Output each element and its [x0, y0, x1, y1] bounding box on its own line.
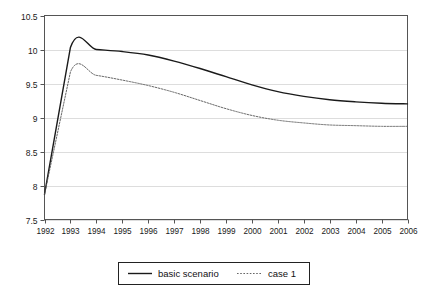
chart-background: [0, 0, 427, 301]
chart-legend: basic scenario case 1: [119, 263, 310, 285]
y-tick-label-10: 10: [28, 46, 38, 56]
legend-label-case-1: case 1: [268, 268, 296, 279]
x-tick-label-2002: 2002: [295, 227, 314, 236]
x-tick-label-2004: 2004: [347, 227, 366, 236]
chart-figure: 10.5109.598.587.5 1992199319941995199619…: [0, 0, 427, 301]
x-tick-label-1992: 1992: [36, 227, 55, 236]
x-tick-label-2006: 2006: [399, 227, 418, 236]
y-tick-label-10.5: 10.5: [21, 12, 38, 22]
x-tick-label-1999: 1999: [217, 227, 236, 236]
x-tick-label-1998: 1998: [191, 227, 210, 236]
x-tick-label-1994: 1994: [87, 227, 106, 236]
y-tick-label-9: 9: [33, 114, 38, 124]
x-tick-label-1995: 1995: [113, 227, 132, 236]
legend-label-basic-scenario: basic scenario: [158, 268, 219, 279]
y-tick-label-8.5: 8.5: [26, 148, 38, 158]
x-tick-label-2003: 2003: [321, 227, 340, 236]
line-chart-canvas: 10.5109.598.587.5 1992199319941995199619…: [0, 0, 427, 301]
x-tick-label-1997: 1997: [165, 227, 184, 236]
x-tick-label-2001: 2001: [269, 227, 288, 236]
y-tick-label-8: 8: [33, 182, 38, 192]
y-tick-label-9.5: 9.5: [26, 80, 38, 90]
x-tick-label-1996: 1996: [139, 227, 158, 236]
y-tick-label-7.5: 7.5: [26, 216, 38, 226]
x-tick-label-2000: 2000: [243, 227, 262, 236]
x-tick-label-2005: 2005: [373, 227, 392, 236]
x-tick-label-1993: 1993: [61, 227, 80, 236]
